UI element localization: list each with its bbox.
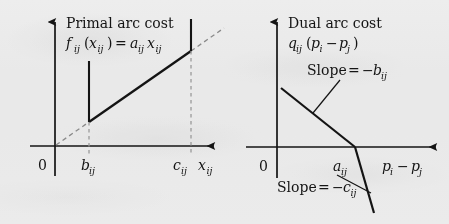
primal-formula-x2: x (147, 35, 155, 51)
dual-segment-slope-minus-c (355, 147, 374, 213)
dual-x-axis-label-minus: − (397, 158, 409, 174)
tick-a-ij: a ij (333, 158, 347, 177)
primal-x-axis-label-x: x (198, 157, 206, 173)
primal-formula-close: ) (107, 35, 112, 51)
dual-formula-q-sub: ij (296, 43, 302, 54)
primal-dashed-ray-extension (191, 28, 224, 51)
panel-dual-arc-cost: Dual arc cost q ij ( p i − p j ) Slope =… (246, 15, 436, 213)
figure-canvas: Primal arc cost f ij ( x ij ) = a ij x i… (0, 0, 449, 224)
primal-x-axis-label-sub: ij (207, 165, 213, 176)
primal-x-axis-label: x ij (198, 157, 213, 176)
primal-formula-f-sub: ij (74, 43, 80, 54)
tick-b-ij-sub: ij (89, 165, 95, 176)
dual-formula-close: ) (353, 35, 358, 51)
primal-formula-x: x (89, 35, 97, 51)
dual-segment-slope-minus-b (281, 88, 355, 147)
slope-upper-text: Slope (307, 62, 347, 78)
primal-formula-equals: = (115, 35, 127, 51)
slope-upper-var-sub: ij (381, 70, 387, 81)
tick-c-ij: c ij (173, 157, 187, 176)
slope-lower-var-sub: ij (351, 187, 357, 198)
slope-lower-equals: = (318, 179, 330, 195)
dual-formula-pi-sub: i (320, 43, 323, 54)
tick-a-ij-sub: ij (341, 166, 347, 177)
primal-dashed-ray-origin (56, 122, 89, 145)
slope-upper-leader-line (313, 80, 340, 113)
slope-lower-minus: − (332, 179, 344, 195)
tick-c-ij-sub: ij (181, 165, 187, 176)
primal-formula-f: f (65, 35, 74, 51)
dual-x-axis-label: p i − p j (382, 158, 422, 177)
primal-cost-line (89, 51, 191, 122)
slope-upper-minus: − (362, 62, 374, 78)
dual-formula-minus: − (326, 35, 338, 51)
slope-upper-equals: = (348, 62, 360, 78)
dual-title: Dual arc cost (288, 15, 382, 31)
dual-x-axis-label-pi-sub: i (390, 166, 393, 177)
dual-formula: q ij ( p i − p j ) (288, 35, 358, 54)
slope-lower-text: Slope (277, 179, 317, 195)
slope-upper-annotation: Slope = − b ij (307, 62, 387, 81)
tick-b-ij: b ij (81, 157, 95, 176)
dual-origin-label: 0 (259, 158, 268, 174)
tick-c-ij-label: c (173, 157, 181, 173)
panel-primal-arc-cost: Primal arc cost f ij ( x ij ) = a ij x i… (30, 15, 224, 176)
slope-lower-annotation: Slope = − c ij (277, 179, 357, 198)
primal-formula-a-sub: ij (138, 43, 144, 54)
primal-formula-x2-sub: ij (156, 43, 162, 54)
primal-formula: f ij ( x ij ) = a ij x ij (65, 35, 162, 54)
primal-origin-label: 0 (38, 157, 47, 173)
primal-title: Primal arc cost (66, 15, 174, 31)
primal-formula-x-sub: ij (98, 43, 104, 54)
